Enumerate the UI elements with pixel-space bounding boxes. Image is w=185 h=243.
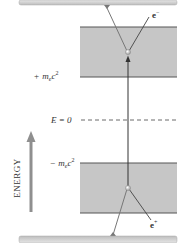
lower-band-label: − mec2 <box>50 157 75 169</box>
top-plate <box>19 0 177 9</box>
upper-band-label: + mec2 <box>34 70 59 82</box>
energy-axis-arrow <box>27 131 36 212</box>
electron-dot <box>125 49 130 54</box>
energy-diagram: ENERGY + mec2 E = 0 − mec2 e− e+ <box>0 0 185 243</box>
electron-label: e− <box>152 9 160 20</box>
bottom-plate <box>19 232 177 243</box>
zero-energy-label: E = 0 <box>50 115 72 125</box>
positron-label: e+ <box>150 219 158 230</box>
energy-axis-label: ENERGY <box>12 158 22 198</box>
hole-dot <box>125 185 130 190</box>
